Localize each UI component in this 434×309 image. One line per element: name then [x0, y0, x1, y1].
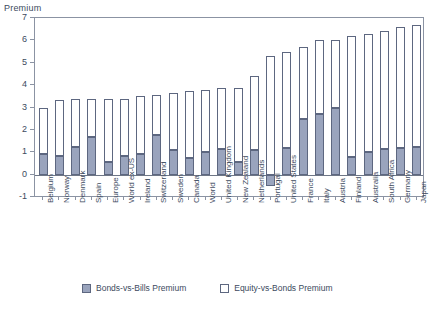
- bar-segment-bonds-vs-bills: [87, 137, 96, 175]
- bar-segment-equity-vs-bonds: [55, 100, 64, 156]
- x-axis-tick-label: South Africa: [387, 160, 396, 203]
- x-axis-tick: [42, 196, 43, 200]
- x-axis-tick: [107, 196, 108, 200]
- y-axis-tick: [30, 39, 34, 40]
- bar-segment-equity-vs-bonds: [250, 76, 259, 150]
- x-axis-tick-label: Canada: [192, 175, 201, 203]
- bar-segment-equity-vs-bonds: [299, 47, 308, 119]
- bar-segment-bonds-vs-bills: [299, 119, 308, 175]
- bar-segment-equity-vs-bonds: [169, 93, 178, 150]
- x-axis-tick: [367, 196, 368, 200]
- bar-segment-equity-vs-bonds: [331, 40, 340, 107]
- legend-swatch-equity-vs-bonds: [220, 284, 229, 293]
- x-axis-tick: [253, 196, 254, 200]
- x-axis-tick: [302, 196, 303, 200]
- x-axis-tick: [123, 196, 124, 200]
- x-axis-tick-label: Switzerland: [159, 162, 168, 203]
- chart-legend: Bonds-vs-Bills Premium Equity-vs-Bonds P…: [82, 283, 332, 293]
- y-axis-tick-label: 4: [0, 79, 27, 89]
- x-axis-tick: [400, 196, 401, 200]
- x-axis-tick: [221, 196, 222, 200]
- x-axis-tick-label: Portugal: [273, 173, 282, 203]
- y-axis-tick-label: 5: [0, 57, 27, 67]
- bar-segment-equity-vs-bonds: [396, 27, 405, 148]
- x-axis-tick-label: Europe: [111, 177, 120, 203]
- bar-segment-equity-vs-bonds: [39, 108, 48, 155]
- chart-figure: Premium -101234567 BelgiumNorwayDenmarkS…: [0, 0, 434, 309]
- bar-segment-bonds-vs-bills: [347, 157, 356, 175]
- x-axis-tick-label: New Zealand: [241, 156, 250, 203]
- x-axis-tick-label: Denmark: [78, 171, 87, 203]
- x-axis-tick: [270, 196, 271, 200]
- x-axis-tick: [188, 196, 189, 200]
- x-axis-tick-label: United Kingdom: [224, 146, 233, 203]
- bar-segment-bonds-vs-bills: [201, 152, 210, 174]
- bar-segment-equity-vs-bonds: [185, 91, 194, 158]
- y-axis-tick: [30, 62, 34, 63]
- x-axis-tick: [91, 196, 92, 200]
- bar-segment-equity-vs-bonds: [71, 99, 80, 147]
- x-axis-tick-label: Finland: [354, 177, 363, 203]
- y-axis-tick-label: 2: [0, 124, 27, 134]
- x-axis-tick-label: Austria: [338, 178, 347, 203]
- y-axis-tick: [30, 196, 34, 197]
- bar-segment-equity-vs-bonds: [266, 56, 275, 175]
- y-axis-tick-label: -1: [0, 191, 27, 201]
- y-axis-tick-label: 1: [0, 146, 27, 156]
- y-axis-tick: [30, 17, 34, 18]
- y-axis-tick: [30, 174, 34, 175]
- x-axis-tick: [383, 196, 384, 200]
- x-axis-tick: [351, 196, 352, 200]
- y-axis-tick-label: 6: [0, 34, 27, 44]
- x-axis-tick-label: World: [208, 182, 217, 203]
- x-axis-tick-label: Japan: [419, 181, 428, 203]
- y-axis-tick: [30, 107, 34, 108]
- x-axis-tick: [58, 196, 59, 200]
- x-axis-tick-label: Norway: [62, 176, 71, 203]
- y-axis-tick: [30, 129, 34, 130]
- bar-segment-equity-vs-bonds: [136, 96, 145, 154]
- bar-segment-equity-vs-bonds: [104, 99, 113, 163]
- bar-segment-bonds-vs-bills: [39, 154, 48, 174]
- bar-segment-equity-vs-bonds: [364, 34, 373, 153]
- x-axis-tick: [140, 196, 141, 200]
- y-axis-tick: [30, 84, 34, 85]
- x-axis-tick-label: France: [306, 178, 315, 203]
- bar-segment-bonds-vs-bills: [315, 114, 324, 174]
- x-axis-tick-label: United States: [289, 155, 298, 203]
- x-axis-tick: [335, 196, 336, 200]
- y-axis-tick: [30, 151, 34, 152]
- x-axis-tick-label: Belgium: [46, 174, 55, 203]
- x-axis-tick-label: Germany: [403, 170, 412, 203]
- legend-label-bonds-vs-bills: Bonds-vs-Bills Premium: [96, 283, 186, 293]
- x-axis-tick: [237, 196, 238, 200]
- bar-segment-bonds-vs-bills: [104, 162, 113, 174]
- bar-segment-equity-vs-bonds: [282, 52, 291, 148]
- x-axis-tick: [286, 196, 287, 200]
- x-axis-tick: [156, 196, 157, 200]
- bar-segment-equity-vs-bonds: [217, 88, 226, 148]
- bar-segment-equity-vs-bonds: [234, 88, 243, 162]
- legend-label-equity-vs-bonds: Equity-vs-Bonds Premium: [234, 283, 332, 293]
- bar-segment-bonds-vs-bills: [55, 156, 64, 175]
- x-axis-tick: [75, 196, 76, 200]
- x-axis-tick: [205, 196, 206, 200]
- x-axis-tick-label: Sweden: [176, 174, 185, 203]
- legend-item-bonds-vs-bills: Bonds-vs-Bills Premium: [82, 283, 186, 293]
- x-axis-tick-label: Spain: [94, 183, 103, 203]
- bar-segment-bonds-vs-bills: [185, 158, 194, 175]
- y-axis-tick-label: 7: [0, 12, 27, 22]
- x-axis-tick: [172, 196, 173, 200]
- bar-segment-equity-vs-bonds: [152, 95, 161, 135]
- x-axis-tick-label: Netherlands: [257, 160, 266, 203]
- x-axis-tick-label: Italy: [322, 188, 331, 203]
- bar-segment-equity-vs-bonds: [120, 99, 129, 156]
- legend-swatch-bonds-vs-bills: [82, 284, 91, 293]
- bar-segment-equity-vs-bonds: [87, 99, 96, 137]
- bar-segment-bonds-vs-bills: [331, 108, 340, 175]
- bar-segment-equity-vs-bonds: [201, 90, 210, 153]
- x-axis-tick: [318, 196, 319, 200]
- bar-segment-bonds-vs-bills: [136, 154, 145, 174]
- bar-segment-equity-vs-bonds: [347, 36, 356, 157]
- bar-segment-bonds-vs-bills: [412, 147, 421, 175]
